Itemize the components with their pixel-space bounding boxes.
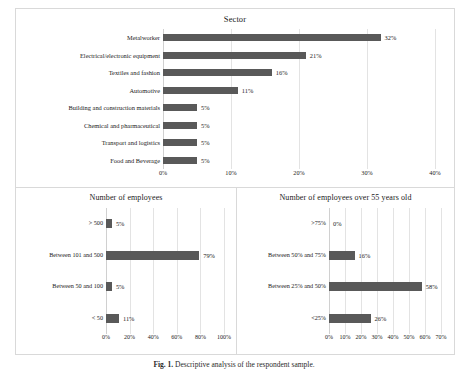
- bar-row: > 5005%: [16, 208, 237, 240]
- x-tick-label: 40%: [429, 169, 440, 176]
- x-tick-label: 100%: [217, 334, 231, 340]
- chart-panel-employees-over-55: Number of employees over 55 years old >7…: [237, 188, 454, 354]
- x-axis-number-of-employees: 0%20%40%60%80%100%: [16, 334, 237, 348]
- bar-category-label: Food and Beverage: [16, 157, 163, 164]
- bar-track: 5%: [163, 117, 454, 135]
- bar-category-label: Transport and logistics: [16, 139, 163, 146]
- bar-category-label: >75%: [237, 220, 329, 227]
- bar: [106, 251, 199, 260]
- bar-row: >75%0%: [237, 208, 454, 240]
- x-tick-label: 20%: [293, 169, 304, 176]
- bar-value-label: 79%: [199, 252, 215, 259]
- bar-row: Electrical/electronic equipment21%: [16, 47, 454, 65]
- bar-value-label: 16%: [272, 69, 288, 76]
- bar-value-label: 11%: [238, 87, 253, 94]
- bar-track: 16%: [163, 64, 454, 82]
- chart-title-employees-over-55: Number of employees over 55 years old: [237, 193, 454, 202]
- x-tick-label: 10%: [225, 169, 236, 176]
- x-axis-sector: 0%10%20%30%40%: [16, 169, 454, 183]
- bar-category-label: Chemical and pharmaceutical: [16, 122, 163, 129]
- x-tick-label: 0%: [102, 334, 110, 340]
- bar-category-label: Metalworker: [16, 34, 163, 41]
- bar: [163, 139, 197, 146]
- bar-value-label: 5%: [197, 157, 210, 164]
- bar-row: <25%26%: [237, 303, 454, 335]
- x-tick-label: 60%: [171, 334, 182, 340]
- bar-category-label: Automotive: [16, 87, 163, 94]
- bar: [163, 122, 197, 129]
- x-axis-employees-over-55: 0%10%20%30%40%50%60%70%: [237, 334, 454, 348]
- bar-row: Automotive11%: [16, 82, 454, 100]
- bar-value-label: 26%: [371, 315, 387, 322]
- plot-area-sector: Metalworker32%Electrical/electronic equi…: [16, 29, 454, 169]
- x-tick-label: 30%: [361, 169, 372, 176]
- bar-value-label: 58%: [422, 283, 438, 290]
- bar-row: Chemical and pharmaceutical5%: [16, 117, 454, 135]
- bar-track: 5%: [163, 152, 454, 170]
- bar-track: 21%: [163, 47, 454, 65]
- x-tick-label: 50%: [404, 334, 415, 340]
- bar-row: < 5011%: [16, 303, 237, 335]
- bar-rows-number-of-employees: > 5005%Between 101 and 50079%Between 50 …: [16, 208, 237, 334]
- bar-track: 58%: [329, 271, 454, 303]
- bar-row: Between 50% and 75%16%: [237, 240, 454, 272]
- bar: [329, 282, 422, 291]
- bar-row: Between 101 and 50079%: [16, 240, 237, 272]
- bar-value-label: 16%: [355, 252, 371, 259]
- bar-track: 5%: [163, 134, 454, 152]
- bar-category-label: Textiles and fashion: [16, 69, 163, 76]
- bar: [329, 251, 355, 260]
- x-tick-label: 40%: [148, 334, 159, 340]
- bar-row: Metalworker32%: [16, 29, 454, 47]
- x-tick-label: 20%: [356, 334, 367, 340]
- bar-track: 79%: [106, 240, 237, 272]
- x-tick-label: 60%: [420, 334, 431, 340]
- bar-row: Transport and logistics5%: [16, 134, 454, 152]
- figure-caption: Fig. 1. Descriptive analysis of the resp…: [0, 360, 468, 369]
- bar: [329, 314, 371, 323]
- x-tick-label: 30%: [372, 334, 383, 340]
- bar-category-label: Between 50 and 100: [16, 283, 106, 290]
- bar-category-label: Between 50% and 75%: [237, 252, 329, 259]
- bar-category-label: Building and construction materials: [16, 104, 163, 111]
- bar-track: 0%: [329, 208, 454, 240]
- bar-row: Textiles and fashion16%: [16, 64, 454, 82]
- chart-panel-sector: Sector Metalworker32%Electrical/electron…: [16, 9, 454, 188]
- bar-track: 16%: [329, 240, 454, 272]
- plot-area-employees-over-55: >75%0%Between 50% and 75%16%Between 25% …: [237, 208, 454, 334]
- bar: [163, 157, 197, 164]
- bar-value-label: 5%: [112, 220, 125, 227]
- bar: [163, 104, 197, 111]
- bar-value-label: 5%: [197, 104, 210, 111]
- figure-container: Sector Metalworker32%Electrical/electron…: [15, 8, 455, 355]
- x-tick-label: 0%: [159, 169, 167, 176]
- chart-panel-number-of-employees: Number of employees > 5005%Between 101 a…: [16, 188, 237, 354]
- bar-category-label: <25%: [237, 315, 329, 322]
- plot-area-number-of-employees: > 5005%Between 101 and 50079%Between 50 …: [16, 208, 237, 334]
- x-tick-label: 70%: [436, 334, 447, 340]
- bar-row: Building and construction materials5%: [16, 99, 454, 117]
- bar-category-label: > 500: [16, 220, 106, 227]
- bar-track: 5%: [106, 271, 237, 303]
- x-tick-label: 80%: [195, 334, 206, 340]
- x-tick-label: 0%: [325, 334, 333, 340]
- x-tick-label: 10%: [340, 334, 351, 340]
- bar: [163, 34, 381, 41]
- bar: [163, 52, 306, 59]
- bar-value-label: 11%: [119, 315, 134, 322]
- bar-track: 11%: [163, 82, 454, 100]
- bar-row: Food and Beverage5%: [16, 152, 454, 170]
- bar: [106, 314, 119, 323]
- bar-value-label: 21%: [306, 52, 322, 59]
- bar-category-label: Between 25% and 50%: [237, 283, 329, 290]
- chart-title-sector: Sector: [16, 14, 454, 24]
- bar-value-label: 5%: [112, 283, 125, 290]
- bar-track: 32%: [163, 29, 454, 47]
- bar-rows-sector: Metalworker32%Electrical/electronic equi…: [16, 29, 454, 169]
- chart-title-number-of-employees: Number of employees: [16, 193, 236, 202]
- bar-value-label: 32%: [381, 34, 397, 41]
- bar-track: 26%: [329, 303, 454, 335]
- bar-row: Between 25% and 50%58%: [237, 271, 454, 303]
- x-tick-label: 20%: [124, 334, 135, 340]
- x-tick-label: 40%: [388, 334, 399, 340]
